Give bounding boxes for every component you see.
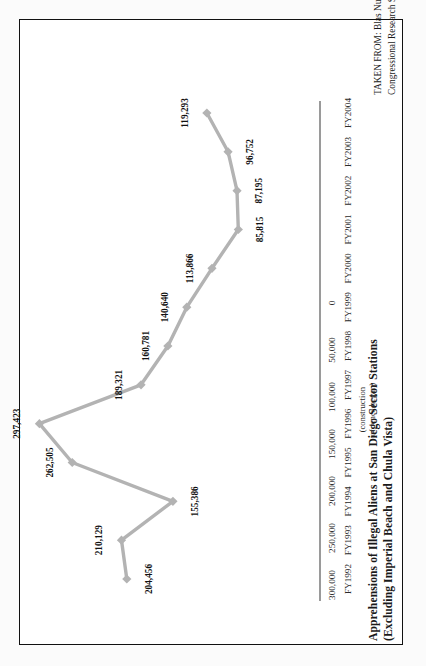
plot-column: 204,456210,129155,386262,505297,423189,3… (21, 101, 401, 601)
value-axis-tick-label: 50,000 (327, 337, 337, 362)
chart-title-column: Apprehensions of Illegal Aliens at San D… (21, 601, 401, 641)
category-axis-tick-label: FY2002 (343, 176, 353, 206)
category-axis-tick-label: FY1993 (343, 525, 353, 555)
data-point-label: 96,752 (245, 139, 255, 165)
value-axis-tick-label: 200,000 (327, 476, 337, 506)
data-point-label: 189,321 (114, 370, 124, 400)
category-axis-tick-label: FY2001 (343, 214, 353, 244)
category-axis-tick-label: FY1998 (343, 331, 353, 361)
fence-construction-annotation: (construction of fence began) (357, 383, 378, 436)
annotation-line-1: (construction (357, 387, 367, 432)
citation-column: TAKEN FROM: Blas Nuñez-Neto and Yule Kim… (21, 21, 401, 95)
data-point-label: 155,386 (190, 486, 200, 516)
data-point-label: 297,423 (12, 409, 22, 439)
category-axis-tick-label: FY1997 (343, 370, 353, 400)
category-axis-tick-label: FY1992 (343, 564, 353, 594)
line-chart-svg (21, 101, 321, 601)
data-point-label: 113,866 (185, 253, 195, 283)
data-point-label: 204,456 (144, 564, 154, 594)
data-point-label: 119,293 (180, 98, 190, 128)
value-axis-tick-label: 0 (327, 301, 337, 306)
category-axis-tick-label: FY1999 (343, 292, 353, 322)
category-axis-tick-label: FY2004 (343, 98, 353, 128)
category-axis-tick-label: FY1994 (343, 486, 353, 516)
category-axis-tick-label: FY2003 (343, 137, 353, 167)
citation-line-1: TAKEN FROM: Blas Nuñez-Neto and Yule Kim… (373, 0, 383, 95)
source-citation: TAKEN FROM: Blas Nuñez-Neto and Yule Kim… (372, 0, 399, 95)
value-axis-tick-label: 150,000 (327, 429, 337, 459)
data-point-label: 87,195 (254, 178, 264, 204)
category-axis-tick-label: FY2000 (343, 253, 353, 283)
data-point-label: 85,815 (255, 217, 265, 243)
value-axis-line (319, 101, 321, 601)
figure-page: Apprehensions of Illegal Aliens at San D… (0, 0, 426, 666)
series-markers (35, 108, 243, 583)
value-axis-tick-label: 100,000 (327, 382, 337, 412)
data-point-label: 160,781 (141, 331, 151, 361)
data-point-label: 262,505 (45, 447, 55, 477)
annotation-line-2: of fence began) (367, 383, 377, 436)
series-line (39, 113, 238, 579)
rotated-figure-canvas: Apprehensions of Illegal Aliens at San D… (21, 21, 401, 643)
data-point-marker (122, 574, 131, 583)
category-axis-tick-label: FY1995 (343, 447, 353, 477)
plot-area: 204,456210,129155,386262,505297,423189,3… (21, 101, 321, 601)
category-axis-tick-label: FY1996 (343, 409, 353, 439)
value-axis-tick-label: 300,000 (327, 570, 337, 600)
data-point-label: 210,129 (94, 525, 104, 555)
data-point-marker (232, 186, 241, 195)
data-point-label: 140,640 (160, 292, 170, 322)
value-axis-tick-label: 250,000 (327, 523, 337, 553)
figure-frame: Apprehensions of Illegal Aliens at San D… (19, 19, 403, 645)
citation-line-2: Congressional Research Service Report fo… (387, 0, 397, 95)
